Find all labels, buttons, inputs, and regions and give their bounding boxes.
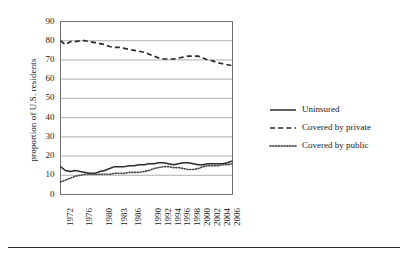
legend-label: Covered by public — [302, 140, 369, 150]
x-tick-label: 1972 — [65, 208, 75, 226]
series-lines-group — [61, 41, 233, 182]
x-tick-label: 1976 — [84, 208, 94, 226]
y-tick-label: 40 — [33, 112, 55, 122]
y-tick-label: 50 — [33, 92, 55, 102]
y-tick-label: 20 — [33, 150, 55, 160]
legend-sample-lines — [270, 110, 296, 146]
x-tick-label: 2006 — [232, 208, 242, 226]
figure-container: proportion of U.S. residents 01020304050… — [0, 0, 408, 255]
x-tick-label: 2002 — [212, 208, 222, 226]
y-tick-label: 0 — [33, 189, 55, 199]
x-tick-label: 2004 — [222, 208, 232, 226]
footer-rule — [8, 247, 400, 248]
y-tick-label: 30 — [33, 131, 55, 141]
x-tick-label: 1998 — [192, 208, 202, 226]
gridlines-group — [61, 22, 233, 176]
x-tick-label: 2000 — [202, 208, 212, 226]
x-tick-label: 1983 — [119, 208, 129, 226]
y-tick-label: 60 — [33, 73, 55, 83]
x-tick-label: 1992 — [163, 208, 173, 226]
plot-frame — [61, 22, 233, 195]
x-tick-label: 1980 — [104, 208, 114, 226]
legend-label: Covered by private — [302, 122, 371, 132]
y-tick-label: 10 — [33, 169, 55, 179]
x-tick-label: 1996 — [182, 208, 192, 226]
y-tick-label: 70 — [33, 54, 55, 64]
x-tick-label: 1990 — [153, 208, 163, 226]
y-tick-label: 80 — [33, 35, 55, 45]
legend-label: Uninsured — [302, 104, 340, 114]
x-tick-label: 1986 — [133, 208, 143, 226]
y-tick-label: 90 — [33, 16, 55, 26]
